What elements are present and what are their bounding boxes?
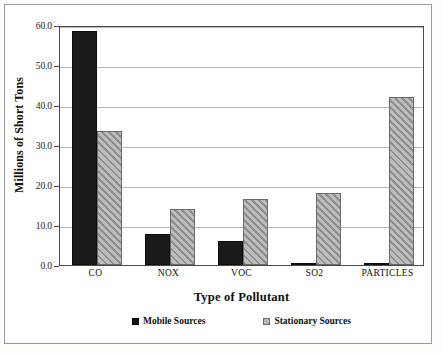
bar-stationary [243,199,268,265]
legend-item: Stationary Sources [263,316,351,326]
y-axis-tick-labels: 0.010.020.030.040.050.060.0 [0,0,59,268]
y-axis-tick-label: 20.0 [6,181,52,191]
bar-group [72,27,122,265]
x-axis-tick-label: CO [59,268,132,278]
y-axis-tick-label: 10.0 [6,221,52,231]
bar-mobile [145,234,170,265]
y-axis-tick-label: 60.0 [6,21,52,31]
plot-area [59,26,424,266]
x-axis-title: Type of Pollutant [59,290,424,305]
x-axis-tick-label: VOC [205,268,278,278]
x-axis-tick-label: PARTICLES [351,268,424,278]
bar-mobile [291,263,316,265]
bar-stationary [97,131,122,265]
y-axis-tick-mark [54,266,59,267]
y-axis-tick-label: 50.0 [6,61,52,71]
bar-mobile [218,241,243,265]
bar-stationary [316,193,341,265]
y-axis-tick-label: 30.0 [6,141,52,151]
legend-label: Mobile Sources [143,316,205,326]
chart-page: Millions of Short Tons 0.010.020.030.040… [0,0,443,353]
bar-mobile [72,31,97,265]
y-axis-tick-label: 0.0 [6,261,52,271]
bar-stationary [170,209,195,265]
bar-group [364,27,414,265]
bar-mobile [364,263,389,265]
y-axis-tick-label: 40.0 [6,101,52,111]
bar-group [218,27,268,265]
x-axis-tick-labels: CONOXVOCSO2PARTICLES [59,268,424,286]
bar-group [145,27,195,265]
x-axis-tick-label: SO2 [278,268,351,278]
chart-legend: Mobile SourcesStationary Sources [59,313,424,329]
legend-swatch-stationary-icon [263,318,270,325]
legend-swatch-mobile-icon [132,318,139,325]
bar-group [291,27,341,265]
bar-stationary [389,97,414,265]
legend-item: Mobile Sources [132,316,205,326]
legend-label: Stationary Sources [274,316,351,326]
x-axis-tick-label: NOX [132,268,205,278]
